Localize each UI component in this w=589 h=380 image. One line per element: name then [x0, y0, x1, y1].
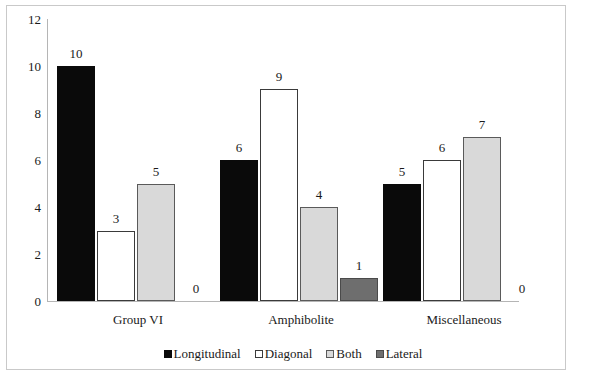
y-tick-label-12: 12	[15, 13, 41, 26]
legend-item-both[interactable]: Both	[326, 347, 361, 360]
legend-swatch-icon	[326, 350, 334, 358]
bar-value-label: 10	[57, 47, 95, 60]
bar-diagonal[interactable]	[423, 160, 461, 301]
bar-group-bars: 6 9 4 1	[220, 19, 378, 301]
bar-longitudinal[interactable]	[57, 66, 95, 301]
bar-value-label: 4	[300, 188, 338, 201]
bar-value-label: 9	[260, 70, 298, 83]
bar-slot-longitudinal: 6	[220, 19, 258, 301]
x-axis-line	[47, 301, 519, 302]
y-tick-label-0: 0	[15, 295, 41, 308]
bar-slot-both: 7	[463, 19, 501, 301]
bar-both[interactable]	[463, 137, 501, 301]
figure-caption	[6, 376, 566, 380]
legend-swatch-icon	[164, 350, 172, 358]
bar-slot-lateral: 0	[503, 19, 541, 301]
bar-value-label: 1	[340, 259, 378, 272]
bar-longitudinal[interactable]	[220, 160, 258, 301]
legend-label: Diagonal	[265, 347, 313, 360]
bar-value-label: 0	[177, 282, 215, 295]
group-label-miscellaneous: Miscellaneous	[383, 312, 545, 327]
legend-item-lateral[interactable]: Lateral	[376, 347, 423, 360]
legend-swatch-icon	[376, 350, 384, 358]
chart-legend: Longitudinal Diagonal Both Lateral	[7, 347, 579, 360]
bar-diagonal[interactable]	[97, 231, 135, 301]
bar-slot-longitudinal: 5	[383, 19, 421, 301]
figure: 12 10 8 6 4 2 0 10 3 5	[0, 0, 589, 380]
y-tick-label-10: 10	[15, 60, 41, 73]
y-tick-label-2: 2	[15, 248, 41, 261]
bar-value-label: 7	[463, 118, 501, 131]
bar-value-label: 6	[220, 141, 258, 154]
y-tick-label-6: 6	[15, 154, 41, 167]
bar-value-label: 5	[383, 165, 421, 178]
bar-longitudinal[interactable]	[383, 184, 421, 301]
legend-item-longitudinal[interactable]: Longitudinal	[164, 347, 241, 360]
bar-value-label: 5	[137, 165, 175, 178]
legend-label: Lateral	[386, 347, 423, 360]
legend-item-diagonal[interactable]: Diagonal	[255, 347, 313, 360]
bar-slot-diagonal: 6	[423, 19, 461, 301]
bar-slot-both: 4	[300, 19, 338, 301]
y-tick-label-4: 4	[15, 201, 41, 214]
y-axis-line	[47, 19, 48, 301]
legend-swatch-icon	[255, 350, 263, 358]
bar-slot-diagonal: 9	[260, 19, 298, 301]
bar-value-label: 6	[423, 141, 461, 154]
bar-group-bars: 5 6 7 0	[383, 19, 541, 301]
group-label-amphibolite: Amphibolite	[220, 312, 382, 327]
bar-slot-lateral: 1	[340, 19, 378, 301]
legend-label: Both	[336, 347, 361, 360]
bar-both[interactable]	[137, 184, 175, 301]
bar-slot-both: 5	[137, 19, 175, 301]
chart-frame: 12 10 8 6 4 2 0 10 3 5	[6, 5, 566, 370]
bar-value-label: 0	[503, 282, 541, 295]
bar-slot-lateral: 0	[177, 19, 215, 301]
bar-value-label: 3	[97, 212, 135, 225]
bar-diagonal[interactable]	[260, 89, 298, 301]
bar-slot-longitudinal: 10	[57, 19, 95, 301]
bar-slot-diagonal: 3	[97, 19, 135, 301]
group-label-group-vi: Group VI	[57, 312, 219, 327]
y-tick-label-8: 8	[15, 107, 41, 120]
bar-group-bars: 10 3 5 0	[57, 19, 215, 301]
bar-lateral[interactable]	[340, 278, 378, 301]
bar-both[interactable]	[300, 207, 338, 301]
legend-label: Longitudinal	[174, 347, 241, 360]
